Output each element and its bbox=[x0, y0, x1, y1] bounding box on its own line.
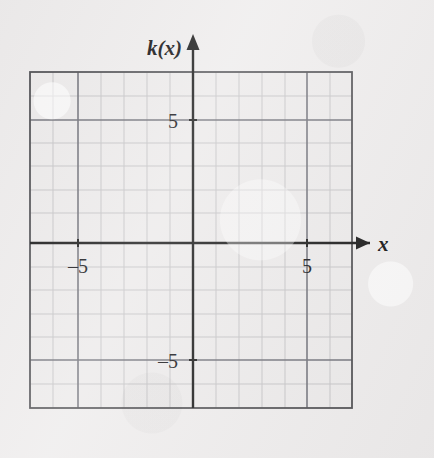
tick-label-x-neg5: –5 bbox=[67, 255, 88, 277]
graph-figure: 5 –5 –5 5 k(x) x bbox=[0, 0, 434, 458]
y-axis-arrow-icon bbox=[187, 34, 200, 50]
x-axis-label: x bbox=[377, 232, 389, 256]
tick-label-y-neg5: –5 bbox=[157, 350, 178, 372]
x-axis-arrow-icon bbox=[356, 237, 370, 250]
tick-label-x-pos5: 5 bbox=[302, 255, 312, 277]
tick-label-y-pos5: 5 bbox=[168, 110, 178, 132]
y-axis-label: k(x) bbox=[147, 36, 182, 60]
coordinate-plane-svg: 5 –5 –5 5 k(x) x bbox=[0, 0, 434, 458]
